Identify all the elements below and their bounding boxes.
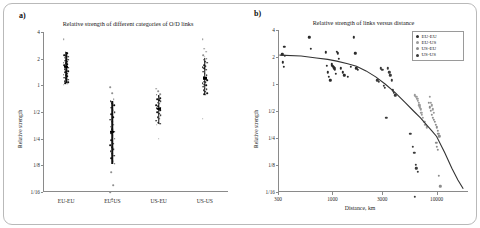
panel-b-fit-curve xyxy=(240,0,480,228)
panel-a-data-point xyxy=(206,74,208,76)
panel-a-mean-marker xyxy=(64,66,68,68)
panel-a-data-point xyxy=(114,138,116,140)
panel-a-y-tick-mark xyxy=(41,59,44,60)
panel-a-y-tick-label: 1/4 xyxy=(21,136,40,142)
panel-a-data-point xyxy=(206,58,208,60)
panel-a-plot-area xyxy=(43,32,228,192)
panel-a-data-point xyxy=(160,114,162,116)
panel-a-data-point xyxy=(67,79,69,81)
panel-a-data-point xyxy=(204,48,206,50)
panel-a-data-point xyxy=(67,52,69,54)
panel-a-y-tick-label: 1/8 xyxy=(21,162,40,168)
panel-a-y-tick-mark xyxy=(41,32,44,33)
panel-b: b) Relative strength of links versus dis… xyxy=(240,0,480,228)
panel-a-y-axis-title: Relative strength xyxy=(17,110,23,148)
panel-a-data-point xyxy=(205,69,207,71)
panel-a-data-point xyxy=(68,71,70,73)
panel-a-data-point xyxy=(156,124,158,126)
panel-a-mean-marker xyxy=(203,77,207,79)
panel-a-data-point xyxy=(111,171,113,173)
panel-a-data-point xyxy=(202,118,204,120)
panel-a-data-point xyxy=(114,163,116,165)
panel-a-data-point xyxy=(205,51,207,53)
panel-a-y-tick-label: 4 xyxy=(21,29,40,35)
panel-a-data-point xyxy=(68,82,70,84)
panel-a-data-point xyxy=(160,101,162,103)
panel-a-data-point xyxy=(113,124,115,126)
panel-a-data-point xyxy=(67,56,69,58)
panel-a-data-point xyxy=(63,84,65,86)
panel-a-y-tick-mark xyxy=(41,139,44,140)
panel-a-data-point xyxy=(109,87,111,89)
panel-a-data-point xyxy=(111,92,113,94)
figure-container: a) Relative strength of different catego… xyxy=(0,0,480,228)
panel-a-data-point xyxy=(112,184,114,186)
panel-a-data-point xyxy=(114,111,116,113)
panel-a-data-point xyxy=(160,97,162,99)
panel-a-data-point xyxy=(157,90,159,92)
panel-a-data-point xyxy=(63,39,65,41)
panel-a-label: a) xyxy=(19,11,26,20)
panel-a-y-tick-label: 1/2 xyxy=(21,109,40,115)
panel-a-data-point xyxy=(113,98,115,100)
panel-a-y-tick-mark xyxy=(41,165,44,166)
panel-a-data-point xyxy=(206,92,208,94)
panel-a-y-tick-label: 1/16 xyxy=(21,189,40,195)
panel-a-mean-marker xyxy=(157,108,161,110)
panel-a-data-point xyxy=(202,39,204,41)
panel-a-data-point xyxy=(156,88,158,90)
panel-a-data-point xyxy=(113,148,115,150)
panel-a-y-tick-mark xyxy=(41,85,44,86)
panel-a-data-point xyxy=(206,62,208,64)
panel-a-data-point xyxy=(113,155,115,157)
panel-a-mean-marker xyxy=(110,130,114,132)
panel-a-category-label-eu-us: EU-US xyxy=(88,198,136,204)
panel-a: a) Relative strength of different catego… xyxy=(0,0,240,228)
panel-a-data-point xyxy=(68,59,70,61)
panel-a-data-point xyxy=(205,85,207,87)
panel-a-y-tick-label: 2 xyxy=(21,56,40,62)
panel-a-category-label-us-us: US-US xyxy=(181,198,229,204)
panel-a-data-point xyxy=(113,104,115,106)
panel-a-y-tick-mark xyxy=(41,192,44,193)
panel-a-data-point xyxy=(159,123,161,125)
panel-a-data-point xyxy=(159,93,161,95)
panel-a-y-tick-label: 1 xyxy=(21,82,40,88)
panel-a-category-label-eu-eu: EU-EU xyxy=(42,198,90,204)
panel-a-data-point xyxy=(109,192,111,194)
panel-a-data-point xyxy=(158,138,160,140)
panel-a-category-label-us-eu: US-EU xyxy=(135,198,183,204)
panel-a-y-tick-mark xyxy=(41,112,44,113)
panel-a-title: Relative strength of different categorie… xyxy=(28,20,228,27)
panel-a-data-point xyxy=(206,89,208,91)
